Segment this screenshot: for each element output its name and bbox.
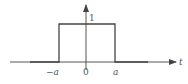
x-axis-label: t — [179, 57, 183, 67]
pulse-diagram: t 1 −a 0 a — [0, 0, 188, 84]
x-tick-a: a — [113, 67, 118, 77]
pulse-curve — [30, 24, 148, 62]
x-tick-zero: 0 — [83, 67, 89, 77]
y-tick-label: 1 — [89, 13, 95, 23]
diagram-svg: t 1 −a 0 a — [0, 0, 188, 84]
x-tick-neg-a: −a — [46, 67, 59, 77]
